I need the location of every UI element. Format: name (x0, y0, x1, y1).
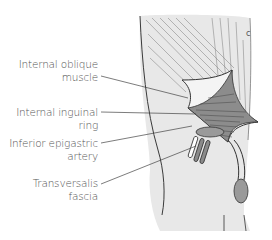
label-line: muscle (19, 71, 98, 84)
label-inferior-epigastric-artery: Inferior epigastric artery (9, 137, 98, 163)
navel-mark: c (246, 29, 250, 38)
label-internal-oblique-muscle: Internal oblique muscle (19, 58, 98, 84)
label-internal-inguinal-ring: Internal inguinal ring (16, 106, 98, 132)
label-line: Internal inguinal (16, 106, 98, 119)
label-line: Inferior epigastric (9, 137, 98, 150)
label-line: Internal oblique (19, 58, 98, 71)
label-line: fascia (33, 190, 98, 203)
label-line: Transversalis (33, 177, 98, 190)
label-transversalis-fascia: Transversalis fascia (33, 177, 98, 203)
label-line: ring (16, 119, 98, 132)
inguinal-ring (196, 127, 224, 137)
label-line: artery (9, 150, 98, 163)
